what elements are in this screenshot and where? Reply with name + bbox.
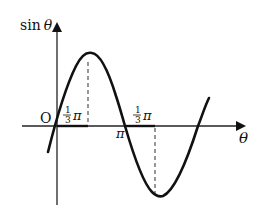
svg-text:1: 1 (65, 105, 71, 115)
first-offset-label: 1 3 π (63, 105, 82, 125)
y-axis-label: sinθ (20, 17, 53, 33)
second-offset-label: 1 3 π (133, 105, 152, 125)
svg-text:3: 3 (65, 115, 71, 125)
sine-curve (48, 53, 209, 197)
sine-diagram: sinθ θ O 1 3 π π 1 3 π (0, 0, 256, 220)
svg-text:3: 3 (135, 115, 141, 125)
svg-text:π: π (142, 108, 152, 123)
origin-label: O (40, 110, 51, 126)
svg-text:1: 1 (135, 105, 141, 115)
pi-label: π (115, 126, 125, 141)
svg-text:π: π (72, 108, 82, 123)
x-axis-label: θ (239, 129, 248, 147)
